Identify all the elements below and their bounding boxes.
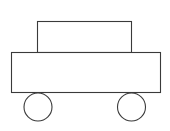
car [12,22,161,122]
car-diagram [0,0,170,131]
car-body [12,53,161,93]
car-roof [38,22,132,53]
rear-wheel [24,93,52,121]
front-wheel [118,93,146,121]
